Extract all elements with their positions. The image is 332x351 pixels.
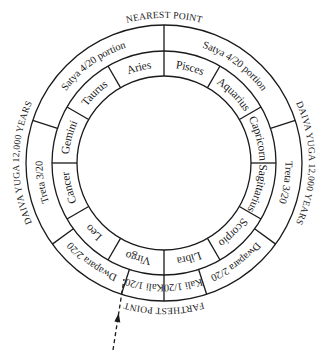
yuga-label-treta: Treta 3/20	[33, 161, 50, 205]
zodiac-ring-labels: PiscesAquariusCapricornSagittariusScorpi…	[59, 58, 270, 267]
arrowhead-icon	[114, 313, 120, 322]
zodiac-divider	[108, 238, 121, 260]
zodiac-label-leo: Leo	[82, 222, 103, 243]
yuga-divider	[255, 229, 276, 244]
zodiac-label-libra: Libra	[176, 250, 203, 268]
zodiac-label-scorpio: Scorpio	[217, 216, 251, 250]
zodiac-label-virgo: Virgo	[123, 249, 151, 267]
label-daiva-left: DAIVA YUGA 12,000 YEARS	[11, 99, 34, 226]
yuga-divider	[52, 229, 73, 244]
zodiac-divider	[67, 107, 89, 120]
zodiac-label-sagittarius: Sagittarius	[245, 164, 269, 215]
yuga-label-kali: Kali 1/20	[164, 277, 204, 294]
segment-dividers	[33, 25, 295, 301]
label-farthest: FARTHEST POINT	[122, 301, 205, 316]
yuga-divider	[33, 120, 58, 128]
zodiac-label-cancer: Cancer	[59, 171, 79, 206]
middle-ring	[52, 51, 276, 275]
yuga-divider	[271, 120, 296, 128]
zodiac-label-taurus: Taurus	[79, 77, 110, 108]
zodiac-label-gemini: Gemini	[59, 118, 79, 155]
zodiac-label-aquarius: Aquarius	[215, 75, 253, 114]
zodiac-label-pisces: Pisces	[175, 58, 206, 77]
yuga-label-treta: Treta 3/20	[277, 161, 294, 205]
label-daiva-right: DAIVA YUGA 12,000 YEARS	[294, 100, 317, 227]
zodiac-divider	[108, 66, 121, 88]
yuga-label-kali: Kali 1/20	[124, 277, 165, 294]
label-nearest: NEAREST POINT	[125, 10, 203, 25]
yuga-cycle-diagram: PiscesAquariusCapricornSagittariusScorpi…	[0, 0, 332, 351]
yuga-label-satya: Satya 4/20 portion	[59, 39, 128, 93]
inner-ring	[77, 76, 251, 250]
zodiac-divider	[67, 207, 89, 220]
zodiac-label-aries: Aries	[125, 58, 153, 76]
yuga-label-satya: Satya 4/20 portion	[201, 39, 269, 93]
